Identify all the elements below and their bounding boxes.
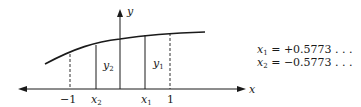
ordinate-label-y2: y2: [103, 60, 114, 73]
up-arrow-icon: [117, 9, 123, 17]
x-axis-label: x: [249, 84, 255, 95]
tick-label-one: 1: [167, 94, 174, 105]
y-axis-label: y: [127, 6, 133, 17]
tick-label-x1: x1: [141, 94, 152, 107]
tick-label-x2: x2: [91, 94, 102, 107]
x-axis: [18, 86, 246, 92]
tick-label-minus-one: −1: [60, 94, 76, 105]
equation-x2: x2 = −0.5773 . . .: [257, 57, 353, 70]
y-axis: [117, 9, 123, 89]
left-arrow-icon: [18, 86, 27, 92]
function-curve: [45, 32, 205, 64]
ordinate-label-y1: y1: [153, 58, 164, 71]
right-arrow-icon: [237, 86, 246, 92]
